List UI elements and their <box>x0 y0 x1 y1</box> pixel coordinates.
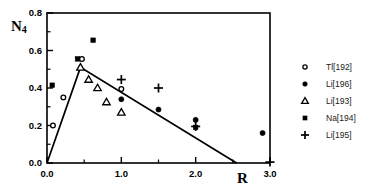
data-point-filled-square <box>50 83 55 88</box>
legend-item-Li193[interactable]: Li[193] <box>292 92 387 109</box>
legend-label: Li[193] <box>318 96 352 106</box>
y-axis-tick-label: 0.0 <box>14 157 42 168</box>
data-point-filled-square <box>75 57 80 62</box>
legend-marker-open-triangle-icon <box>292 94 318 108</box>
data-point-open-circle <box>80 57 85 62</box>
legend-marker-glyph <box>303 64 307 68</box>
legend-marker-open-circle-icon <box>292 60 318 74</box>
legend-marker-plus-icon <box>292 128 318 142</box>
data-point-filled-circle <box>193 117 198 122</box>
data-point-open-triangle <box>77 64 85 70</box>
legend-item-Li196[interactable]: Li[196] <box>292 75 387 92</box>
y-axis-tick-label: 0.8 <box>14 7 42 18</box>
series-Na194 <box>50 38 198 130</box>
chart-figure: N4 R Tl[192]Li[196]Li[193]Na[194]Li[195]… <box>0 0 389 195</box>
data-point-filled-circle <box>156 107 161 112</box>
data-point-filled-square <box>91 38 96 43</box>
data-point-open-triangle <box>85 76 93 82</box>
chart-legend: Tl[192]Li[196]Li[193]Na[194]Li[195] <box>292 58 387 143</box>
legend-label: Li[196] <box>318 79 352 89</box>
x-axis-tick-label: 1.0 <box>106 168 136 179</box>
data-point-open-triangle <box>94 84 102 90</box>
legend-marker-glyph <box>303 81 308 86</box>
legend-label: Li[195] <box>318 130 352 140</box>
y-axis-tick-label: 0.2 <box>14 120 42 131</box>
y-axis-tick-label: 0.6 <box>14 45 42 56</box>
legend-item-Na194[interactable]: Na[194] <box>292 109 387 126</box>
legend-marker-filled-circle-icon <box>292 77 318 91</box>
trend-line <box>47 67 237 163</box>
series-Tl192 <box>51 57 124 128</box>
legend-label: Na[194] <box>318 113 356 123</box>
x-axis-tick-label: 2.0 <box>181 168 211 179</box>
data-point-filled-circle <box>260 130 265 135</box>
legend-label: Tl[192] <box>318 62 352 72</box>
legend-item-Li195[interactable]: Li[195] <box>292 126 387 143</box>
data-point-filled-circle <box>119 97 124 102</box>
data-point-open-circle <box>51 123 56 128</box>
legend-marker-filled-square-icon <box>292 111 318 125</box>
legend-marker-glyph <box>302 97 309 103</box>
data-point-open-triangle <box>103 98 111 104</box>
series-Li196 <box>119 97 265 136</box>
data-point-open-circle <box>61 95 66 100</box>
y-axis-tick-label: 0.4 <box>14 82 42 93</box>
legend-marker-glyph <box>303 115 307 119</box>
data-point-open-triangle <box>118 109 126 115</box>
x-axis-tick-label: 0.0 <box>32 168 62 179</box>
legend-item-Tl192[interactable]: Tl[192] <box>292 58 387 75</box>
data-point-open-circle <box>119 87 124 92</box>
x-axis-tick-label: 3.0 <box>255 168 285 179</box>
